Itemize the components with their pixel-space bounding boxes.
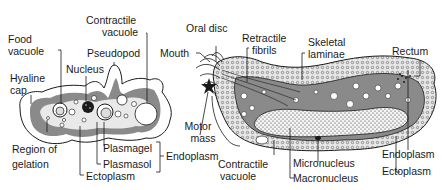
label-plasmagel: Plasmagel xyxy=(103,142,152,154)
label-mouth: Mouth xyxy=(160,47,189,59)
label-food-vacuole-line2: vacuole xyxy=(8,45,44,57)
label-motor-mass-line2: mass xyxy=(176,132,220,144)
label-macronucleus: Macronucleus xyxy=(293,172,358,184)
label-pseudopod: Pseudopod xyxy=(87,47,140,59)
label-region-of-gelation-line1: Region of xyxy=(12,143,57,155)
protozoa-anatomy-diagram: Food vacuole Contractile vacuole Pseudop… xyxy=(0,0,442,190)
label-endoplasm-ciliate: Endoplasm xyxy=(382,148,435,160)
label-hyaline-cap-line2: cap xyxy=(10,84,45,96)
label-skeletal-laminae: Skeletal laminae xyxy=(308,36,345,60)
label-contractile-vacuole-amoeba: Contractile vacuole xyxy=(86,14,138,38)
label-plasmasol: Plasmasol xyxy=(103,158,151,170)
label-skeletal-laminae-line2: laminae xyxy=(308,48,345,60)
label-ectoplasm-amoeba: Ectoplasm xyxy=(86,170,135,182)
label-retractile-fibrils: Retractile fibrils xyxy=(242,32,286,56)
ciliate-body xyxy=(196,53,436,151)
label-region-of-gelation-line2: gelation xyxy=(12,158,57,170)
label-hyaline-cap-line1: Hyaline xyxy=(10,72,45,84)
label-endoplasm-amoeba: Endoplasm xyxy=(166,150,219,162)
label-contractile-vacuole-amoeba-line2: vacuole xyxy=(86,26,138,38)
label-motor-mass: Motor mass xyxy=(176,120,220,144)
label-ectoplasm-ciliate: Ectoplasm xyxy=(382,165,431,177)
label-rectum: Rectum xyxy=(392,45,428,57)
label-oral-disc: Oral disc xyxy=(186,22,227,34)
label-region-of-gelation: Region of gelation xyxy=(12,143,57,170)
label-retractile-fibrils-line2: fibrils xyxy=(242,44,286,56)
label-hyaline-cap: Hyaline cap xyxy=(10,72,45,96)
label-nucleus: Nucleus xyxy=(66,63,104,75)
label-food-vacuole-line1: Food xyxy=(8,33,44,45)
label-motor-mass-line1: Motor xyxy=(176,120,220,132)
label-skeletal-laminae-line1: Skeletal xyxy=(308,36,345,48)
label-micronucleus: Micronucleus xyxy=(293,157,355,169)
label-contractile-vacuole-ciliate-line1: Contractile xyxy=(218,158,268,170)
label-contractile-vacuole-ciliate: Contractile vacuole xyxy=(218,158,268,182)
label-contractile-vacuole-amoeba-line1: Contractile xyxy=(86,14,138,26)
label-retractile-fibrils-line1: Retractile xyxy=(242,32,286,44)
label-food-vacuole: Food vacuole xyxy=(8,33,44,57)
label-contractile-vacuole-ciliate-line2: vacuole xyxy=(218,170,268,182)
